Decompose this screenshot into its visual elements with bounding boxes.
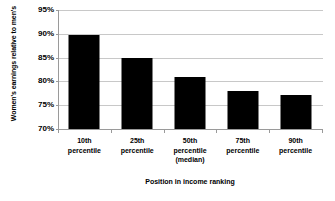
bar-slot	[58, 10, 111, 129]
bar[interactable]	[280, 95, 311, 129]
y-axis-tick-label: 75%	[10, 101, 54, 109]
x-axis-category-label-line: percentile	[164, 146, 217, 156]
bar-slot	[164, 10, 217, 129]
x-axis-category-labels: 10thpercentile25thpercentile50thpercenti…	[58, 136, 322, 170]
bar[interactable]	[122, 58, 153, 129]
x-axis-tick-mark	[58, 130, 59, 133]
y-axis-tick-label: 80%	[10, 77, 54, 85]
x-axis-tick-marks	[58, 130, 322, 134]
y-axis-title: Women's earnings relative to men's	[10, 0, 17, 129]
x-axis-category-label-line: 25th	[111, 136, 164, 146]
bar-slot	[216, 10, 269, 129]
bar[interactable]	[174, 77, 205, 129]
x-axis-category-label: 90thpercentile	[269, 136, 322, 155]
x-axis-category-label-line: 50th	[164, 136, 217, 146]
x-axis-category-label: 75thpercentile	[216, 136, 269, 155]
x-axis-category-label: 50thpercentile(median)	[164, 136, 217, 165]
y-axis-tick-label: 85%	[10, 54, 54, 62]
x-axis-title: Position in income ranking	[58, 178, 322, 185]
x-axis-tick-mark	[269, 130, 270, 133]
x-axis-category-label-line: percentile	[216, 146, 269, 156]
bar-slot	[269, 10, 322, 129]
y-axis-tick-label: 70%	[10, 125, 54, 133]
bars-layer	[58, 10, 322, 129]
bar[interactable]	[227, 91, 258, 129]
x-axis-category-label: 10thpercentile	[58, 136, 111, 155]
x-axis-tick-mark	[216, 130, 217, 133]
bar-chart: Women's earnings relative to men's 70%75…	[0, 0, 335, 201]
x-axis-category-label-line: 75th	[216, 136, 269, 146]
x-axis-category-label-line: percentile	[111, 146, 164, 156]
x-axis-category-label-line: 90th	[269, 136, 322, 146]
x-axis-category-label-line: percentile	[269, 146, 322, 156]
x-axis-category-label-line: (median)	[164, 155, 217, 165]
x-axis-tick-mark	[164, 130, 165, 133]
y-axis-tick-label: 95%	[10, 6, 54, 14]
x-axis-category-label: 25thpercentile	[111, 136, 164, 155]
y-axis-tick-label: 90%	[10, 30, 54, 38]
bar[interactable]	[69, 35, 100, 129]
x-axis-tick-mark	[322, 130, 323, 133]
x-axis-category-label-line: percentile	[58, 146, 111, 156]
bar-slot	[111, 10, 164, 129]
x-axis-tick-mark	[111, 130, 112, 133]
x-axis-category-label-line: 10th	[58, 136, 111, 146]
